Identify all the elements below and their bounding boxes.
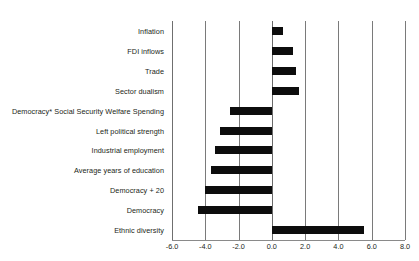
- value-tick-label: 6.0: [367, 242, 377, 252]
- bar: [211, 166, 272, 174]
- category-label: Democracy* Social Security Welfare Spend…: [12, 106, 164, 115]
- bar: [215, 146, 272, 154]
- value-axis-tick-labels: -6.0-4.0-2.00.02.04.06.08.0: [172, 242, 405, 256]
- value-tick-label: -6.0: [166, 242, 179, 252]
- category-label: Democracy + 20: [110, 186, 164, 195]
- value-axis-line: [172, 240, 405, 241]
- horizontal-bar-chart: InflationFDI inflowsTradeSector dualismD…: [0, 0, 419, 261]
- bar: [272, 27, 283, 35]
- category-axis-labels: InflationFDI inflowsTradeSector dualismD…: [0, 21, 168, 240]
- bar: [272, 47, 294, 55]
- bar: [272, 67, 296, 75]
- value-tick-label: 4.0: [333, 242, 343, 252]
- value-tick-label: 2.0: [300, 242, 310, 252]
- value-tick-label: 0.0: [267, 242, 277, 252]
- bar: [205, 186, 272, 194]
- category-axis-line: [172, 21, 173, 240]
- value-tick-label: -4.0: [199, 242, 212, 252]
- category-label: Inflation: [138, 26, 164, 35]
- category-label: Democracy: [127, 206, 164, 215]
- category-label: Sector dualism: [115, 86, 164, 95]
- category-label: Industrial employment: [92, 146, 164, 155]
- value-tick-label: 8.0: [400, 242, 410, 252]
- category-label: Average years of education: [74, 166, 164, 175]
- gridline-2: [305, 21, 306, 240]
- bar: [198, 206, 272, 214]
- bar: [220, 127, 272, 135]
- category-label: Trade: [145, 66, 164, 75]
- bar: [272, 87, 299, 95]
- category-label: FDI inflows: [127, 46, 164, 55]
- category-label: Left political strength: [96, 126, 164, 135]
- bar: [230, 107, 272, 115]
- gridline-6: [372, 21, 373, 240]
- gridline-4: [338, 21, 339, 240]
- value-tick-label: -2.0: [232, 242, 245, 252]
- bar: [272, 226, 364, 234]
- gridline-8: [405, 21, 406, 240]
- plot-area: [172, 21, 405, 240]
- category-label: Ethnic diversity: [114, 226, 164, 235]
